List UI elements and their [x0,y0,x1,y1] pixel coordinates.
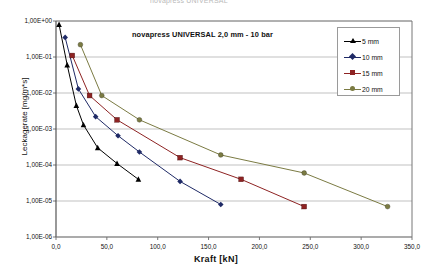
data-point [62,35,68,41]
legend-label: 15 mm [362,70,383,77]
data-point [115,117,120,122]
data-point [218,153,223,158]
x-tick-label: 300,0 [353,243,369,250]
data-point [239,177,244,182]
data-point [218,202,224,208]
x-tick-label: 0,0 [52,243,61,250]
x-tick-label: 350,0 [404,243,420,250]
legend-label: 5 mm [362,38,379,45]
y-tick-label: 1,00E-01 [26,53,52,60]
legend-item[interactable]: 5 mm [338,33,399,49]
x-tick-label: 50,0 [101,243,114,250]
legend-marker-5mm [344,36,361,46]
x-tick-label: 200,0 [251,243,267,250]
cropped-header-text: novapress UNIVERSAL [150,0,320,6]
data-point [137,117,142,122]
data-point [99,93,104,98]
data-point [136,176,142,181]
data-point [74,102,80,107]
legend-marker-15mm [344,68,361,78]
legend-item[interactable]: 10 mm [338,49,399,65]
data-point [178,155,183,160]
legend-marker-20mm [344,84,361,94]
y-tick-label: 1,00E+00 [24,17,52,24]
data-point [87,93,92,98]
legend-item[interactable]: 15 mm [338,65,399,81]
legend-marker-10mm [344,52,361,62]
legend-item[interactable]: 20 mm [338,81,399,97]
data-point [78,42,83,47]
x-tick-label: 250,0 [302,243,318,250]
data-point [81,122,87,127]
data-point [56,21,62,26]
x-tick-label: 150,0 [201,243,217,250]
chart-title: novapress UNIVERSAL 2,0 mm - 10 bar [132,30,273,39]
data-point [70,53,75,58]
y-axis-label: Leckagerate [mg/m*s] [20,57,29,177]
y-tick-label: 1,00E-03 [26,125,52,132]
y-tick-label: 1,00E-04 [26,161,52,168]
y-tick-label: 1,00E-05 [26,197,52,204]
series-5-mm [56,21,141,181]
data-point [64,62,70,67]
data-point [302,171,307,176]
chart-container: novapress UNIVERSAL 1,00E+001,00E-011,00… [0,0,432,273]
chart-legend: 5 mm 10 mm 15 mm 20 mm [337,27,400,96]
data-point [76,86,82,92]
data-point [95,145,101,150]
y-tick-label: 1,00E-06 [26,233,52,240]
data-point [385,204,390,209]
data-point [302,204,307,209]
x-tick-label: 100,0 [150,243,166,250]
y-tick-label: 1,00E-02 [26,89,52,96]
x-axis-label: Kraft [kN] [0,254,432,264]
legend-label: 20 mm [362,86,383,93]
legend-label: 10 mm [362,54,383,61]
